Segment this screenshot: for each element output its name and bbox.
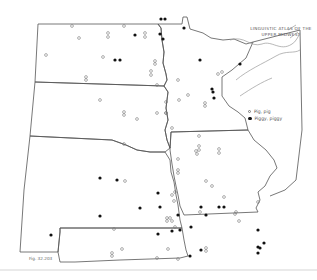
open-circle-marker bbox=[144, 32, 147, 35]
open-circle-marker bbox=[171, 220, 174, 223]
filled-circle-marker bbox=[199, 205, 202, 208]
open-circle-marker bbox=[85, 79, 88, 82]
open-circle-marker bbox=[177, 79, 180, 82]
open-circle-marker bbox=[221, 71, 224, 74]
filled-circle-marker bbox=[163, 17, 166, 20]
open-circle-marker bbox=[171, 194, 174, 197]
open-circle-marker bbox=[211, 185, 214, 188]
open-circle-marker bbox=[238, 220, 241, 223]
southern-boundary bbox=[58, 228, 188, 262]
legend-item-pig: Pig, pig bbox=[248, 108, 282, 115]
filled-circle-marker bbox=[98, 176, 101, 179]
filled-circle-marker bbox=[262, 241, 265, 244]
filled-circle-marker bbox=[204, 213, 207, 216]
open-circle-marker bbox=[78, 37, 81, 40]
filled-circle-marker bbox=[256, 228, 259, 231]
filled-circle-marker bbox=[212, 96, 215, 99]
figure-label: Fig. 32.203 bbox=[29, 256, 52, 261]
open-circle-marker bbox=[223, 196, 226, 199]
open-circle-marker bbox=[111, 252, 114, 255]
open-circle-marker bbox=[177, 172, 180, 175]
open-circle-marker bbox=[45, 54, 48, 57]
filled-circle-marker bbox=[198, 58, 201, 61]
legend-label-pig: Pig, pig bbox=[254, 108, 271, 115]
filled-circle-marker bbox=[189, 225, 192, 228]
open-circle-marker bbox=[198, 145, 201, 148]
iowa-boundary bbox=[170, 130, 277, 215]
filled-circle-marker bbox=[156, 232, 159, 235]
open-circle-marker bbox=[123, 25, 126, 28]
filled-circle-marker bbox=[156, 191, 159, 194]
open-circle-icon bbox=[248, 110, 251, 113]
open-circle-marker bbox=[102, 56, 105, 59]
filled-circle-marker bbox=[133, 33, 136, 36]
open-circle-marker bbox=[150, 74, 153, 77]
open-circle-marker bbox=[169, 217, 172, 220]
open-circle-marker bbox=[205, 247, 208, 250]
legend-item-piggy: Piggy, piggy bbox=[248, 115, 282, 122]
open-circle-marker bbox=[171, 127, 174, 130]
filled-circle-marker bbox=[159, 17, 162, 20]
map-canvas bbox=[0, 0, 317, 280]
filled-circle-marker bbox=[238, 62, 241, 65]
minnesota-boundary bbox=[158, 17, 253, 148]
open-circle-marker bbox=[85, 76, 88, 79]
filled-circle-marker bbox=[115, 178, 118, 181]
open-circle-marker bbox=[111, 255, 114, 258]
open-circle-marker bbox=[107, 36, 110, 39]
map-title: LINGUISTIC ATLAS OF THE UPPER MIDWEST bbox=[246, 26, 316, 38]
open-circle-marker bbox=[154, 60, 157, 63]
open-circle-marker bbox=[121, 248, 124, 251]
open-circle-marker bbox=[187, 94, 190, 97]
open-circle-marker bbox=[144, 36, 147, 39]
open-circle-marker bbox=[205, 250, 208, 253]
filled-circle-marker bbox=[188, 254, 191, 257]
open-circle-marker bbox=[199, 211, 202, 214]
open-circle-marker bbox=[99, 99, 102, 102]
filled-circle-marker bbox=[176, 213, 179, 216]
filled-circle-marker bbox=[217, 205, 220, 208]
open-circle-marker bbox=[124, 180, 127, 183]
filled-circle-marker bbox=[98, 214, 101, 217]
filled-circle-marker bbox=[258, 246, 261, 249]
open-circle-marker bbox=[173, 200, 176, 203]
filled-circle-markers bbox=[49, 17, 265, 257]
open-circle-marker bbox=[123, 114, 126, 117]
open-circle-marker bbox=[71, 25, 74, 28]
open-circle-marker bbox=[136, 118, 139, 121]
open-circle-marker bbox=[198, 149, 201, 152]
open-circle-marker bbox=[177, 169, 180, 172]
open-circle-markers bbox=[45, 25, 260, 261]
filled-circle-marker bbox=[178, 228, 181, 231]
open-circle-marker bbox=[196, 153, 199, 156]
filled-circle-marker bbox=[199, 248, 202, 251]
open-circle-marker bbox=[166, 217, 169, 220]
open-circle-marker bbox=[177, 158, 180, 161]
open-circle-marker bbox=[198, 135, 201, 138]
open-circle-marker bbox=[150, 70, 153, 73]
north-dakota-boundary bbox=[35, 24, 167, 86]
open-circle-marker bbox=[156, 112, 159, 115]
filled-circle-marker bbox=[158, 205, 161, 208]
filled-circle-icon bbox=[248, 117, 252, 121]
filled-circle-marker bbox=[49, 233, 52, 236]
south-dakota-boundary bbox=[30, 82, 170, 152]
filled-circle-marker bbox=[210, 87, 213, 90]
open-circle-marker bbox=[204, 102, 207, 105]
state-boundaries bbox=[20, 17, 302, 262]
filled-circle-marker bbox=[211, 90, 214, 93]
filled-circle-marker bbox=[113, 58, 116, 61]
filled-circle-marker bbox=[222, 205, 225, 208]
filled-circle-marker bbox=[256, 251, 259, 254]
open-circle-marker bbox=[166, 220, 169, 223]
open-circle-marker bbox=[217, 73, 220, 76]
open-circle-marker bbox=[204, 105, 207, 108]
map-legend: Pig, pig Piggy, piggy bbox=[248, 108, 282, 122]
open-circle-marker bbox=[154, 63, 157, 66]
open-circle-marker bbox=[167, 248, 170, 251]
filled-circle-marker bbox=[158, 32, 161, 35]
open-circle-marker bbox=[218, 152, 221, 155]
filled-circle-marker bbox=[118, 58, 121, 61]
open-circle-marker bbox=[218, 148, 221, 151]
filled-circle-marker bbox=[138, 206, 141, 209]
